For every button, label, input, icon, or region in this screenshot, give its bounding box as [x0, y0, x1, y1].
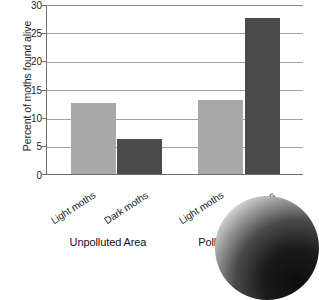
x-category-label-polluted-light: Light moths	[177, 189, 225, 226]
group-label-unpolluted-area: Unpolluted Area	[48, 236, 168, 248]
scan-shadow-artifact	[215, 196, 319, 300]
y-tick-label-10: 10	[12, 113, 42, 124]
bar-unpolluted-light-moths	[71, 103, 116, 174]
y-tick-label-30: 30	[12, 0, 42, 11]
y-tick-label-25: 25	[12, 28, 42, 39]
y-tick-label-15: 15	[12, 85, 42, 96]
y-tick-label-20: 20	[12, 56, 42, 67]
bar-polluted-dark-moths	[245, 18, 280, 174]
plot-area	[46, 5, 303, 175]
group-label-polluted-area: Polluted area	[175, 236, 285, 248]
y-tick-label-5: 5	[12, 141, 42, 152]
x-category-label-unpolluted-dark: Dark moths	[102, 190, 150, 227]
x-category-label-polluted-dark: Dark moths	[229, 190, 277, 227]
x-category-label-unpolluted-light: Light moths	[49, 189, 97, 226]
bar-polluted-light-moths	[198, 100, 243, 174]
bar-unpolluted-dark-moths	[117, 139, 162, 174]
y-tick-label-0: 0	[12, 170, 42, 181]
